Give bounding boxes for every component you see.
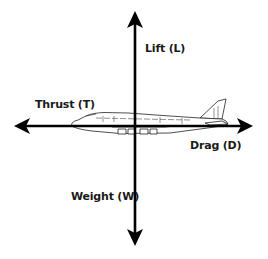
diagram-canvas xyxy=(0,0,268,259)
four-forces-diagram: Lift (L) Thrust (T) Drag (D) Weight (W) xyxy=(0,0,268,259)
lift-label: Lift (L) xyxy=(145,42,185,55)
weight-label: Weight (W) xyxy=(71,190,139,203)
thrust-label: Thrust (T) xyxy=(35,98,95,111)
drag-label: Drag (D) xyxy=(190,139,241,152)
airplane-icon xyxy=(72,99,228,134)
